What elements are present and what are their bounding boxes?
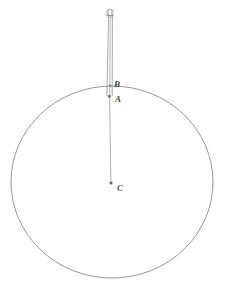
diagram-canvas: B A C bbox=[0, 0, 230, 292]
rod-inner-shade bbox=[110, 16, 111, 95]
rod-top-ring-icon bbox=[107, 9, 114, 16]
radius-segment bbox=[110, 96, 111, 183]
point-b-dot bbox=[109, 84, 111, 86]
point-label-c: C bbox=[117, 184, 123, 193]
geometry-figure bbox=[0, 0, 230, 292]
point-c-dot bbox=[109, 181, 112, 184]
rod-left-edge bbox=[107, 16, 109, 97]
point-a-dot bbox=[108, 95, 111, 98]
point-label-b: B bbox=[114, 80, 120, 89]
point-label-a: A bbox=[115, 95, 121, 104]
